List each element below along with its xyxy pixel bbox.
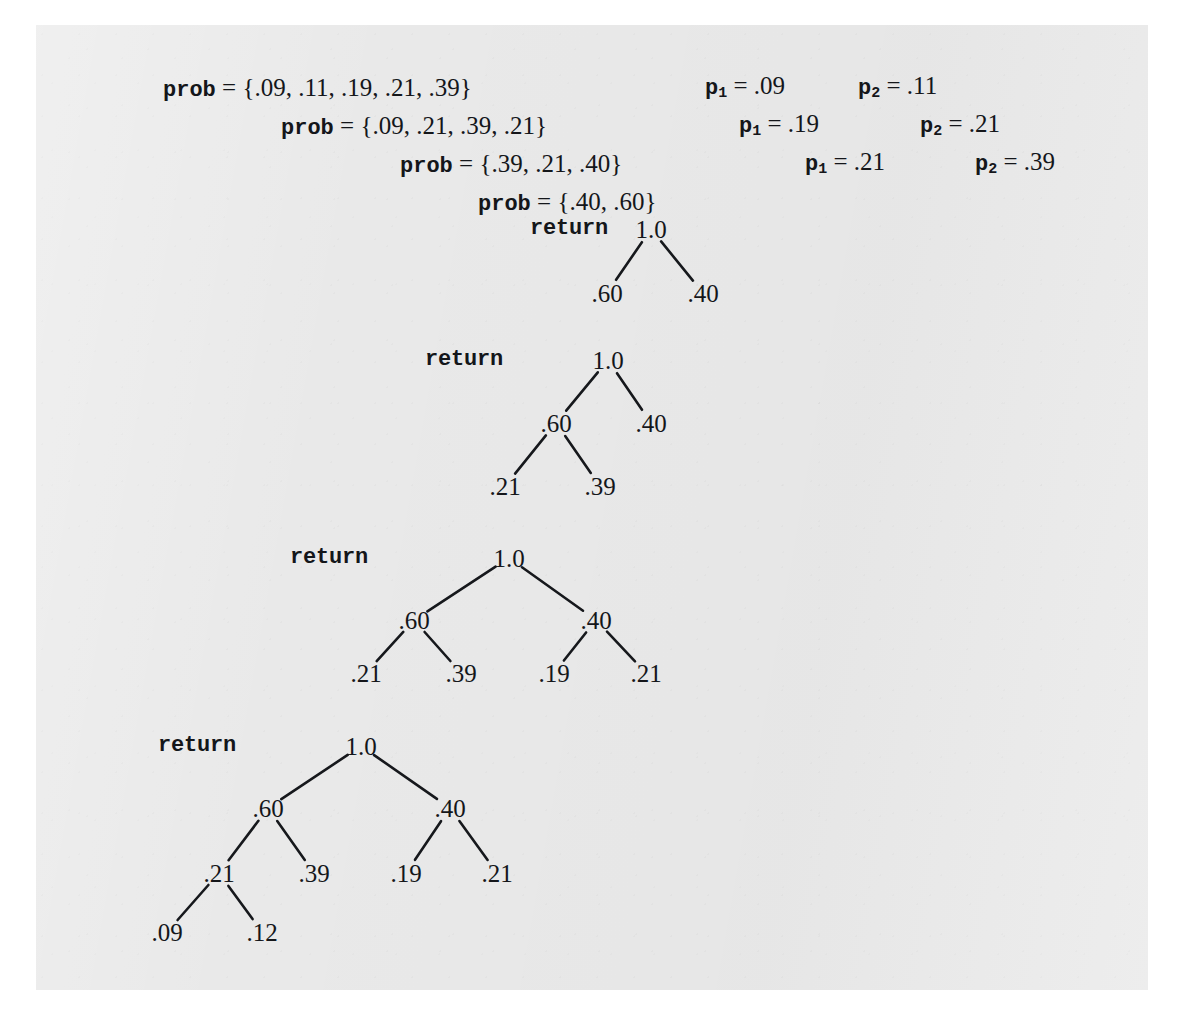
p-value: .09 bbox=[754, 72, 785, 99]
p-subscript-assignment: p2 = .21 bbox=[920, 111, 1000, 139]
equals-sign: = bbox=[827, 148, 854, 175]
tree-node-label: .60 bbox=[398, 608, 429, 633]
prob-value-set: {.09, .11, .19, .21, .39} bbox=[242, 74, 471, 101]
tree-node-label: .21 bbox=[489, 474, 520, 499]
prob-assignment-line: prob = {.09, .11, .19, .21, .39} bbox=[163, 75, 472, 102]
p-subscript-assignment: p1 = .09 bbox=[705, 73, 785, 101]
equals-sign: = bbox=[216, 74, 243, 101]
prob-value-set: {.09, .21, .39, .21} bbox=[360, 112, 547, 139]
p-variable-name: p bbox=[739, 114, 752, 139]
prob-keyword: prob bbox=[478, 192, 531, 217]
p-value: .11 bbox=[907, 72, 937, 99]
equals-sign: = bbox=[880, 72, 907, 99]
tree-node-label: .40 bbox=[687, 281, 718, 306]
equals-sign: = bbox=[727, 72, 754, 99]
p-variable-name: p bbox=[858, 76, 871, 101]
prob-keyword: prob bbox=[400, 154, 453, 179]
tree-node-label: .60 bbox=[591, 281, 622, 306]
prob-assignment-line: prob = {.39, .21, .40} bbox=[400, 151, 622, 178]
prob-assignment-line: prob = {.09, .21, .39, .21} bbox=[281, 113, 547, 140]
tree-node-label: .21 bbox=[481, 861, 512, 886]
p-variable-subscript: 2 bbox=[988, 161, 997, 178]
tree-node-label: .40 bbox=[580, 608, 611, 633]
equals-sign: = bbox=[334, 112, 361, 139]
p-variable-subscript: 1 bbox=[752, 123, 761, 140]
tree-node-label: .39 bbox=[584, 474, 615, 499]
p-variable-name: p bbox=[705, 76, 718, 101]
p-variable-subscript: 2 bbox=[871, 85, 880, 102]
p-variable-subscript: 2 bbox=[933, 123, 942, 140]
tree-node-label: .39 bbox=[445, 661, 476, 686]
prob-value-set: {.40, .60} bbox=[557, 188, 656, 215]
p-value: .39 bbox=[1024, 148, 1055, 175]
equals-sign: = bbox=[761, 110, 788, 137]
p-subscript-assignment: p2 = .39 bbox=[975, 149, 1055, 177]
p-subscript-assignment: p1 = .21 bbox=[805, 149, 885, 177]
tree-node-label: 1.0 bbox=[592, 348, 623, 373]
p-variable-subscript: 1 bbox=[718, 85, 727, 102]
p-variable-name: p bbox=[805, 152, 818, 177]
return-keyword: return bbox=[290, 547, 368, 569]
tree-node-label: .60 bbox=[540, 411, 571, 436]
tree-node-label: 1.0 bbox=[635, 217, 666, 242]
prob-value-set: {.39, .21, .40} bbox=[479, 150, 622, 177]
p-value: .19 bbox=[788, 110, 819, 137]
figure-text-layer: prob = {.09, .11, .19, .21, .39}prob = {… bbox=[0, 0, 1179, 1019]
p-variable-name: p bbox=[975, 152, 988, 177]
prob-assignment-line: prob = {.40, .60} bbox=[478, 189, 656, 216]
tree-node-label: .60 bbox=[252, 796, 283, 821]
equals-sign: = bbox=[997, 148, 1024, 175]
tree-node-label: .39 bbox=[298, 861, 329, 886]
tree-node-label: .40 bbox=[635, 411, 666, 436]
return-keyword: return bbox=[530, 218, 608, 240]
equals-sign: = bbox=[453, 150, 480, 177]
p-value: .21 bbox=[969, 110, 1000, 137]
tree-node-label: .12 bbox=[246, 920, 277, 945]
tree-node-label: .21 bbox=[203, 861, 234, 886]
tree-node-label: .19 bbox=[538, 661, 569, 686]
return-keyword: return bbox=[425, 349, 503, 371]
return-keyword: return bbox=[158, 735, 236, 757]
p-subscript-assignment: p1 = .19 bbox=[739, 111, 819, 139]
tree-node-label: .09 bbox=[151, 920, 182, 945]
tree-node-label: 1.0 bbox=[493, 546, 524, 571]
tree-node-label: .21 bbox=[630, 661, 661, 686]
tree-node-label: .21 bbox=[350, 661, 381, 686]
page-canvas: prob = {.09, .11, .19, .21, .39}prob = {… bbox=[0, 0, 1179, 1019]
equals-sign: = bbox=[942, 110, 969, 137]
tree-node-label: 1.0 bbox=[345, 734, 376, 759]
tree-node-label: .40 bbox=[434, 796, 465, 821]
p-variable-name: p bbox=[920, 114, 933, 139]
p-variable-subscript: 1 bbox=[818, 161, 827, 178]
prob-keyword: prob bbox=[163, 78, 216, 103]
equals-sign: = bbox=[531, 188, 558, 215]
p-subscript-assignment: p2 = .11 bbox=[858, 73, 937, 101]
prob-keyword: prob bbox=[281, 116, 334, 141]
tree-node-label: .19 bbox=[390, 861, 421, 886]
p-value: .21 bbox=[854, 148, 885, 175]
